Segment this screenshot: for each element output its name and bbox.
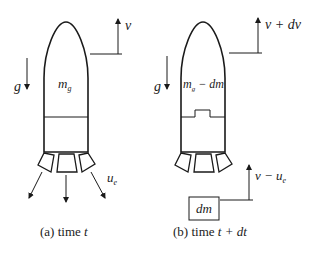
exhaust-velocity-label: ue [107,170,118,187]
rocket-b-nozzle-left [175,153,191,172]
ejected-velocity-label: v − ue [255,168,287,185]
caption-a: (a) time t [40,224,88,239]
ejected-mass-label: dm [196,201,212,216]
velocity-label-b: v + dv [265,17,302,32]
rocket-a-nozzle-right [79,153,95,172]
caption-b: (b) time t + dt [173,224,247,239]
gravity-label-b: g [154,79,161,94]
rocket-momentum-diagram: ue g mg v (a) time t g mg − dm v + dv dm [0,0,310,253]
exhaust-arrow-right [91,172,105,198]
gravity-label-a: g [14,79,21,94]
velocity-label-a: v [125,18,132,33]
rocket-b-nozzle-center [194,154,214,172]
mass-label-b: mg − dm [183,77,224,93]
rocket-b-stage-line [181,110,225,117]
exhaust-arrow-left [29,172,42,198]
rocket-a-nozzle-left [38,153,54,172]
panel-a: ue g mg v (a) time t [14,18,132,239]
panel-b: g mg − dm v + dv dm v − ue (b) time t + … [154,17,302,239]
rocket-b-nozzle-right [216,153,232,172]
mass-label-a: mg [58,76,71,93]
rocket-a-nozzle-center [57,154,77,172]
